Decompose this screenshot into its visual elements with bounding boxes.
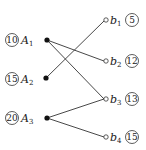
node-dot [44, 37, 49, 42]
node-value: 15 [126, 132, 138, 142]
node-b2: b2 12 [104, 55, 139, 70]
node-label: b1 [110, 14, 122, 28]
node-label: b3 [110, 93, 122, 107]
edge-a3-b3 [47, 99, 104, 118]
node-label: b2 [110, 55, 122, 69]
node-dot [44, 115, 49, 120]
bipartite-graph: 10 A1 15 A2 20 A3 b1 5 b2 12 b3 13 b4 15 [0, 0, 146, 150]
edge-a1-b2 [47, 40, 104, 61]
node-label: b4 [110, 131, 122, 145]
node-b1: b1 5 [104, 14, 139, 29]
node-value: 10 [6, 35, 18, 45]
node-label: A2 [20, 73, 33, 87]
node-dot [104, 59, 108, 63]
node-value: 13 [126, 94, 138, 104]
node-value: 15 [6, 74, 18, 84]
node-dot [104, 97, 108, 101]
node-dot [43, 75, 48, 80]
node-a2: 15 A2 [6, 73, 49, 88]
node-dot [104, 18, 108, 22]
node-value: 5 [129, 15, 135, 25]
node-label: A1 [20, 34, 33, 48]
node-a3: 20 A3 [6, 112, 50, 127]
node-b3: b3 13 [104, 93, 139, 108]
edge-a3-b4 [47, 118, 104, 137]
node-value: 20 [6, 113, 18, 123]
node-value: 12 [126, 56, 137, 66]
edges [46, 21, 104, 137]
node-a1: 10 A1 [6, 34, 50, 49]
node-dot [104, 135, 108, 139]
node-label: A3 [20, 112, 33, 126]
node-b4: b4 15 [104, 131, 139, 146]
